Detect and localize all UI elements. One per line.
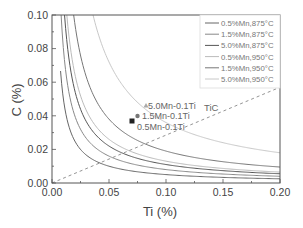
tic-label: TiC [204, 102, 219, 113]
label-0.5Mn-0.1Ti: 0.5Mn-0.1Ti [137, 122, 185, 132]
y-tick: 0.10 [28, 9, 49, 21]
y-tick: 0.08 [28, 42, 49, 54]
y-tick: 0.00 [28, 177, 49, 189]
y-tick-labels: 0.00 0.02 0.04 0.06 0.08 0.10 [28, 9, 49, 189]
legend-label: 5.0%Mn,950°C [221, 75, 274, 84]
y-tick: 0.04 [28, 110, 49, 122]
y-tick: 0.02 [28, 143, 49, 155]
x-tick: 0.15 [213, 186, 234, 198]
legend-label: 5.0%Mn,875°C [221, 41, 274, 50]
y-axis-label: C (%) [9, 83, 24, 116]
label-5.0Mn-0.1Ti: 5.0Mn-0.1Ti [148, 101, 196, 111]
legend-label: 1.5%Mn,950°C [221, 64, 274, 73]
legend: 0.5%Mn,875°C1.5%Mn,875°C5.0%Mn,875°C0.5%… [200, 15, 280, 88]
x-tick-labels: 0.00 0.05 0.10 0.15 0.20 [42, 186, 291, 198]
legend-label: 0.5%Mn,875°C [221, 19, 274, 28]
x-tick: 0.05 [99, 186, 120, 198]
legend-label: 0.5%Mn,950°C [221, 53, 274, 62]
label-1.5Mn-0.1Ti: 1.5Mn-0.1Ti [142, 111, 190, 121]
x-tick: 0.20 [270, 186, 291, 198]
solubility-chart: 0.00 0.05 0.10 0.15 0.20 0.00 0.02 0.04 … [0, 0, 303, 228]
legend-label: 1.5%Mn,875°C [221, 30, 274, 39]
circle-marker [135, 114, 139, 118]
x-axis-label: Ti (%) [143, 204, 177, 219]
y-tick: 0.06 [28, 76, 49, 88]
x-tick: 0.10 [156, 186, 177, 198]
square-marker [130, 119, 135, 124]
